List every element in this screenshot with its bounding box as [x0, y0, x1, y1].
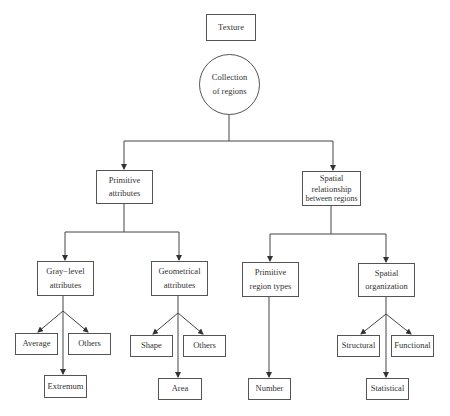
node-area: Area — [158, 378, 202, 400]
node-label: Others — [78, 337, 101, 350]
node-collection-of-regions: Collection of regions — [199, 54, 260, 115]
node-label: Number — [256, 382, 284, 395]
node-functional: Functional — [391, 335, 434, 357]
node-label-line1: Gray−level — [46, 265, 84, 278]
node-label-line2: attributes — [164, 279, 196, 292]
node-average: Average — [15, 333, 58, 355]
node-gray-level-attributes: Gray−level attributes — [37, 261, 94, 296]
node-others-gray: Others — [68, 333, 111, 355]
node-statistical: Statistical — [366, 378, 409, 400]
node-geometrical-attributes: Geometrical attributes — [151, 261, 208, 296]
node-shape: Shape — [130, 335, 173, 357]
node-primitive-region-types: Primitive region types — [242, 262, 299, 297]
node-label: Statistical — [371, 382, 405, 395]
node-label-line2: of regions — [212, 85, 246, 98]
node-spatial-organization: Spatial organization — [358, 263, 415, 297]
node-structural: Structural — [337, 335, 380, 357]
node-label-line2: attributes — [50, 279, 82, 292]
node-others-geo: Others — [183, 335, 226, 357]
node-label: Structural — [342, 339, 376, 352]
node-label: Extremum — [48, 380, 84, 393]
node-label-line2: attributes — [109, 187, 141, 200]
node-texture: Texture — [206, 14, 256, 41]
node-label-line1: Geometrical — [158, 265, 200, 278]
node-label: Area — [172, 382, 189, 395]
node-label-line1: Spatial — [375, 267, 399, 280]
node-primitive-attributes: Primitive attributes — [96, 170, 153, 204]
node-extremum: Extremum — [44, 375, 87, 398]
node-label: Functional — [394, 339, 430, 352]
node-label: Average — [22, 337, 50, 350]
node-label-line1: Spatial — [320, 173, 344, 184]
node-label-line1: Primitive — [255, 266, 287, 279]
node-number: Number — [248, 378, 291, 400]
node-label: Others — [193, 339, 216, 352]
node-label-line1: Collection — [212, 71, 247, 84]
node-label-line1: Primitive — [109, 174, 141, 187]
node-label: Texture — [218, 21, 244, 34]
node-label-line2: region types — [250, 280, 292, 293]
node-label-line3: between regions — [305, 194, 357, 204]
node-label-line2: relationship — [311, 184, 351, 195]
node-label-line2: organization — [365, 280, 407, 293]
node-label: Shape — [141, 339, 162, 352]
node-spatial-relationship: Spatial relationship between regions — [302, 171, 361, 206]
